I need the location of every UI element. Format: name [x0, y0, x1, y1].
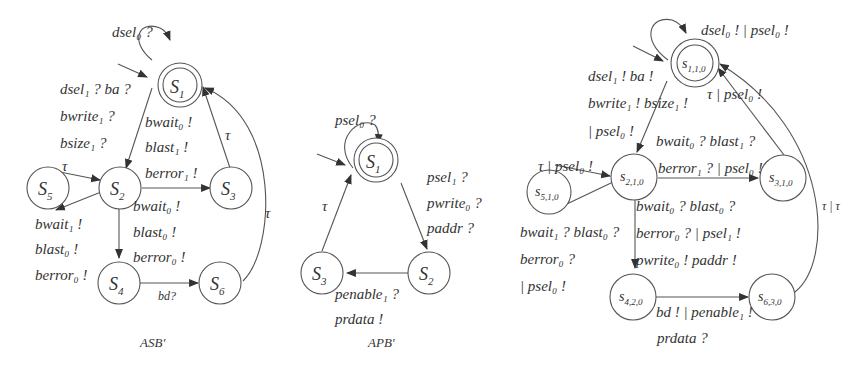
label-s6-s1: τ	[265, 205, 271, 221]
label-s1-s2-line3: bsize₁ ?	[60, 135, 107, 151]
label-s1-s2-line1: dsel₁ ? ba ?	[60, 81, 131, 97]
label-s2-s4-line1: bwait₀ !	[133, 198, 180, 214]
label-s630-s110: τ | τ	[822, 199, 841, 213]
label-s110-s210-line3: | psel₀ !	[588, 123, 634, 139]
label-s110-s210-line2: bwrite₁ ! bsize₁ !	[588, 95, 688, 111]
edge-initial-s1	[118, 64, 147, 77]
label-s2-s5-line1: bwait₁ !	[35, 216, 82, 232]
label-s510-s210: τ | psel₀ !	[538, 158, 593, 174]
label-s210-s420-line2: berror₀ ? | psel₁ !	[636, 225, 741, 241]
label-s3-s1: τ	[322, 198, 328, 214]
label-s210-s420-line3: pwrite₀ ! paddr !	[635, 252, 737, 268]
label-s2-s4-line3: berror₀ !	[133, 249, 186, 265]
label-s210-s510-line2: berror₀ ?	[520, 251, 576, 267]
label-s420-s630-line1: bd ! | penable₁ !	[656, 304, 753, 320]
state-s1: S1	[354, 138, 398, 182]
state-s630: s6,3,0	[749, 274, 795, 320]
label-s2-s3-line1: penable₁ ?	[334, 286, 399, 302]
label-s110-s210-line1: dsel₁ ! ba !	[588, 68, 654, 84]
caption-asb: ASB'	[139, 335, 165, 350]
label-s110-self: dsel₀ ! | psel₀ !	[701, 22, 789, 38]
label-s2-s3-line1: bwait₀ !	[145, 114, 192, 130]
label-s1-s2-line3: paddr ?	[426, 220, 475, 236]
diagram-asb: S1 S2 S3 S4 S5 S6 dsel₀ ? dsel₁ ? ba ? b…	[27, 24, 271, 350]
label-s2-s3-line2: prdata !	[334, 311, 383, 327]
label-s4-s6: bd?	[158, 289, 176, 303]
edge-initial-s1	[317, 154, 345, 165]
label-s210-s510-line1: bwait₁ ? blast₀ ?	[520, 224, 620, 240]
diagram-apb: S1 S2 S3 psel₀ ? psel₁ ? pwrite₀ ? paddr…	[301, 112, 482, 350]
state-s310: s3,1,0	[760, 155, 806, 201]
state-s1: S1	[158, 63, 202, 107]
label-s5-s2: τ	[62, 158, 68, 174]
label-s1-s2-line1: psel₁ ?	[426, 169, 468, 185]
label-s2-s3-line3: berror₁ !	[145, 165, 198, 181]
label-s210-s310-line1: bwait₀ ? blast₁ ?	[656, 133, 756, 149]
label-s2-s3-line2: blast₁ !	[145, 139, 188, 155]
label-s210-s420-line1: bwait₀ ? blast₀ ?	[636, 198, 736, 214]
state-s6: S6	[199, 262, 241, 304]
label-s2-s5-line3: berror₀ !	[35, 267, 88, 283]
label-s1-self: dsel₀ ?	[112, 24, 153, 40]
state-s210: s2,1,0	[611, 154, 657, 200]
label-s310-s110: τ | psel₀ !	[707, 86, 762, 102]
edge-s1-s2	[401, 183, 427, 249]
label-s2-s4-line2: blast₀ !	[133, 224, 176, 240]
edge-initial-s110	[633, 46, 663, 61]
state-s420: s4,2,0	[610, 274, 656, 320]
label-s210-s510-line3: | psel₀ !	[520, 278, 566, 294]
state-s3: S3	[210, 167, 252, 209]
label-s210-s310-line2: berror₁ ? | psel₀ !	[658, 160, 763, 176]
diagram-composition: s1,1,0 s2,1,0 s3,1,0 s5,1,0 s4,2,0 s6,3,…	[520, 19, 841, 346]
label-s1-s2-line2: bwrite₁ ?	[60, 108, 115, 124]
state-s4: S4	[98, 262, 140, 304]
automata-figure: S1 S2 S3 S4 S5 S6 dsel₀ ? dsel₁ ? ba ? b…	[0, 0, 867, 373]
label-s2-s5-line2: blast₀ !	[35, 241, 78, 257]
label-s3-s1: τ	[225, 127, 231, 143]
state-s2: S2	[408, 252, 450, 294]
caption-apb: APB'	[367, 335, 395, 350]
state-s110: s1,1,0	[671, 39, 719, 87]
label-s1-s2-line2: pwrite₀ ?	[426, 195, 482, 211]
state-s510: s5,1,0	[527, 170, 571, 214]
label-s1-self: psel₀ ?	[334, 112, 376, 128]
label-s420-s630-line2: prdata ?	[656, 330, 708, 346]
